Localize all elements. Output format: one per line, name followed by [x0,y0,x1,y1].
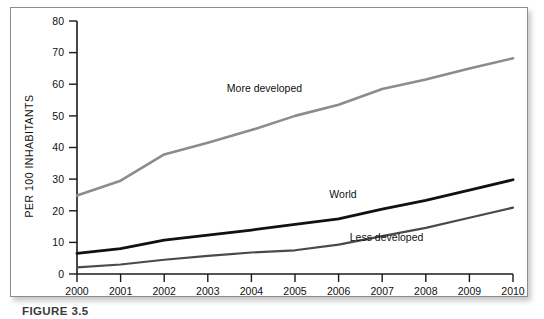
x-tick-label-2006: 2006 [327,285,351,297]
series-line-more-developed [77,58,513,195]
y-tick-label-30: 30 [52,173,64,185]
y-tick-label-10: 10 [52,236,64,248]
series-label-more-developed: More developed [227,82,302,94]
x-axis-tick-labels: 2000 2001 2002 2003 2004 2005 2006 2007 … [65,285,525,297]
y-tick-label-20: 20 [52,205,64,217]
series-line-world [77,180,513,254]
x-axis-ticks [77,274,513,282]
figure-page: PER 100 INHABITANTS 80 70 60 50 40 30 20… [0,0,544,319]
x-tick-label-2005: 2005 [283,285,307,297]
chart-plot-area: PER 100 INHABITANTS 80 70 60 50 40 30 20… [11,8,529,298]
x-tick-label-2009: 2009 [458,285,482,297]
x-tick-label-2007: 2007 [371,285,395,297]
y-axis-ticks [69,21,77,274]
series-label-world: World [329,188,356,200]
x-tick-label-2000: 2000 [65,285,89,297]
figure-caption: FIGURE 3.5 [22,305,89,317]
y-tick-label-0: 0 [58,268,64,280]
x-tick-label-2010: 2010 [501,285,525,297]
x-tick-label-2002: 2002 [153,285,177,297]
figure-frame: PER 100 INHABITANTS 80 70 60 50 40 30 20… [10,7,528,297]
series-line-less-developed [77,208,513,268]
y-tick-label-50: 50 [52,110,64,122]
x-tick-label-2001: 2001 [109,285,133,297]
y-axis-title: PER 100 INHABITANTS [23,94,35,217]
y-tick-label-80: 80 [52,15,64,27]
series-annotations: More developedWorldLess developed [227,82,424,243]
x-tick-label-2004: 2004 [240,285,264,297]
series-label-less-developed: Less developed [350,231,424,243]
x-tick-label-2003: 2003 [196,285,220,297]
y-axis-tick-labels: 80 70 60 50 40 30 20 10 0 [52,15,64,280]
y-tick-label-40: 40 [52,141,64,153]
y-tick-label-60: 60 [52,78,64,90]
x-tick-label-2008: 2008 [414,285,438,297]
line-chart: PER 100 INHABITANTS 80 70 60 50 40 30 20… [11,8,529,298]
y-tick-label-70: 70 [52,46,64,58]
